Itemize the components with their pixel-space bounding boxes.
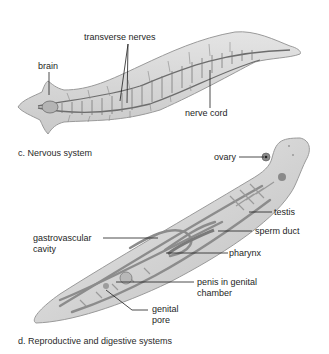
label-pharynx: pharynx	[229, 248, 261, 259]
label-gastrovascular-line1: gastrovascular	[33, 233, 92, 244]
label-genital-pore: genital pore	[152, 304, 179, 326]
label-testis: testis	[274, 207, 295, 218]
label-penis-line2: chamber	[197, 288, 257, 299]
caption-reproductive-digestive: d. Reproductive and digestive systems	[18, 336, 172, 347]
label-sperm-duct: sperm duct	[255, 226, 300, 237]
label-gastrovascular-line2: cavity	[33, 244, 92, 255]
label-gastrovascular-cavity: gastrovascular cavity	[33, 233, 92, 255]
label-penis-line1: penis in genital	[197, 277, 257, 288]
label-genital-line2: pore	[152, 315, 179, 326]
label-ovary: ovary	[214, 152, 236, 163]
caption-nervous-system: c. Nervous system	[18, 148, 92, 159]
label-penis-genital-chamber: penis in genital chamber	[197, 277, 257, 299]
label-brain: brain	[38, 61, 58, 72]
label-genital-line1: genital	[152, 304, 179, 315]
label-nerve-cord: nerve cord	[185, 108, 228, 119]
label-transverse-nerves: transverse nerves	[84, 32, 156, 43]
nervous-system-worm	[18, 32, 301, 134]
flatworm-diagram	[0, 0, 329, 354]
